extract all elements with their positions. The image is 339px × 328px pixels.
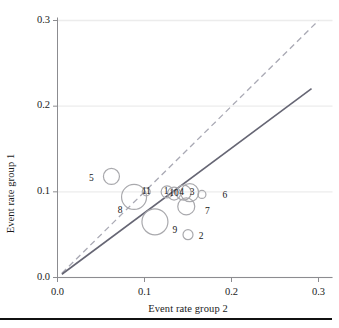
bubble-9 [142, 209, 168, 235]
y-tick-label-0: 0.0 [16, 271, 50, 282]
trend-lines [62, 21, 319, 275]
x-tick-label-2: 0.2 [217, 286, 247, 297]
x-axis-label: Event rate group 2 [57, 303, 319, 314]
y-tick-label-3: 0.3 [16, 14, 50, 25]
bubble-label-7: 7 [202, 206, 212, 216]
bubble-label-8: 8 [115, 205, 125, 215]
plot-canvas [0, 0, 339, 328]
bubble-2 [183, 230, 193, 240]
bubble-plot-figure: Event rate group 1 Event rate group 2 0.… [0, 0, 339, 328]
bubble-5 [103, 168, 119, 184]
trend-line-regression [62, 89, 312, 275]
gridlines [58, 21, 333, 278]
bubble-label-5: 5 [86, 173, 96, 183]
x-tick-label-3: 0.3 [304, 286, 334, 297]
bubble-label-10: 10 [169, 188, 179, 198]
x-tick-label-1: 0.1 [130, 286, 160, 297]
x-tick-label-0: 0.0 [43, 286, 73, 297]
bubble-label-11: 11 [141, 186, 151, 196]
bubble-label-6: 6 [220, 190, 230, 200]
axis-lines [54, 18, 333, 278]
bubble-label-3: 3 [187, 187, 197, 197]
bubble-label-9: 9 [170, 225, 180, 235]
y-tick-label-1: 0.1 [16, 185, 50, 196]
trend-line-identity [62, 21, 319, 274]
y-axis-label: Event rate group 1 [5, 134, 16, 254]
bottom-rule [0, 318, 332, 320]
bubble-label-2: 2 [196, 231, 206, 241]
y-tick-label-2: 0.2 [16, 99, 50, 110]
